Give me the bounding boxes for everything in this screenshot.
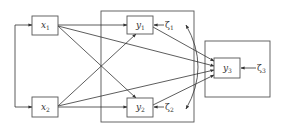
node-y3: y3 xyxy=(214,58,240,78)
zeta2-label: ζ2 xyxy=(165,102,174,113)
covariance-zeta1-zeta2 xyxy=(186,25,198,109)
path-x2-y1 xyxy=(58,34,136,106)
path-x1-y2 xyxy=(58,26,136,98)
node-x1: x1 xyxy=(32,16,58,35)
node-x2: x2 xyxy=(32,97,58,117)
covariance-x1-x2 xyxy=(15,25,32,107)
path-diagram: x1 x2 y1 y2 y3 ζ1 ζ2 ζ3 xyxy=(0,0,282,131)
node-y2: y2 xyxy=(127,98,153,117)
zeta1-label: ζ1 xyxy=(165,20,174,31)
node-y1: y1 xyxy=(127,16,153,34)
zeta3-label: ζ3 xyxy=(257,63,266,74)
